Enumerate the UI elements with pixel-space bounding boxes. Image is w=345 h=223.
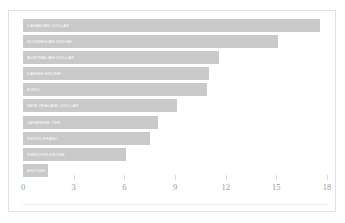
x-axis-tick-label: 18 (323, 182, 332, 192)
x-axis-tick-mark (124, 175, 125, 180)
bar-chart-card: CANADIAN DOLLARNORWEGIAN KRONEAUSTRALIAN… (8, 10, 336, 212)
x-axis-tick-mark (226, 175, 227, 180)
x-axis-tick-label: 0 (21, 182, 25, 192)
bar-label: CANADIAN DOLLAR (27, 19, 69, 32)
bar-label: AUSTRALIAN DOLLAR (27, 51, 74, 64)
x-axis-tick-mark (276, 175, 277, 180)
x-axis: 0369121518 (23, 175, 327, 205)
x-axis-tick-mark (175, 175, 176, 180)
bar-row[interactable]: JAPANESE YEN (23, 116, 327, 129)
bar-label: NEW ZEALAND DOLLAR (27, 99, 79, 112)
x-axis-tick-label: 12 (221, 182, 230, 192)
x-axis-tick-label: 9 (173, 182, 177, 192)
bar-label: DANISH KRONE (27, 67, 61, 80)
x-axis-tick-label: 15 (272, 182, 281, 192)
bar-row[interactable]: EURO (23, 83, 327, 96)
bar-row[interactable]: NORWEGIAN KRONE (23, 35, 327, 48)
x-axis-tick-label: 6 (122, 182, 126, 192)
bar-row[interactable]: CANADIAN DOLLAR (23, 19, 327, 32)
bar[interactable] (23, 83, 207, 96)
x-axis-tick-label: 3 (72, 182, 76, 192)
x-axis-baseline (23, 204, 327, 205)
bar-label: JAPANESE YEN (27, 116, 61, 129)
bar-label: SWEDISH KRONE (27, 148, 65, 161)
bar-row[interactable]: NEW ZEALAND DOLLAR (23, 99, 327, 112)
chart-plot-area: CANADIAN DOLLARNORWEGIAN KRONEAUSTRALIAN… (23, 19, 327, 175)
bar-label: NORWEGIAN KRONE (27, 35, 72, 48)
bar-label: SWISS FRANC (27, 132, 58, 145)
bar-label: EURO (27, 83, 40, 96)
bar-row[interactable]: SWEDISH KRONE (23, 148, 327, 161)
x-axis-tick-mark (74, 175, 75, 180)
bar-row[interactable]: DANISH KRONE (23, 67, 327, 80)
bar-row[interactable]: AUSTRALIAN DOLLAR (23, 51, 327, 64)
x-axis-tick-mark (327, 175, 328, 180)
bar-row[interactable]: SWISS FRANC (23, 132, 327, 145)
